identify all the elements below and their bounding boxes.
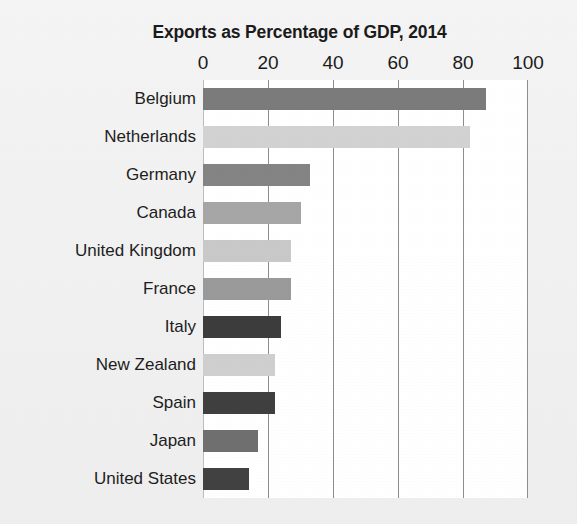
bar-new-zealand: [203, 354, 275, 376]
bar-spain: [203, 392, 275, 414]
category-label-japan: Japan: [150, 432, 196, 449]
x-tick-label-100: 100: [512, 52, 544, 74]
bar-row: [203, 468, 528, 490]
bar-row: [203, 164, 528, 186]
bar-row: [203, 430, 528, 452]
x-tick-label-0: 0: [198, 52, 209, 74]
bar-netherlands: [203, 126, 470, 148]
bar-italy: [203, 316, 281, 338]
x-tick-label-80: 80: [452, 52, 473, 74]
bar-row: [203, 316, 528, 338]
bar-row: [203, 126, 528, 148]
category-label-germany: Germany: [126, 166, 196, 183]
bar-united-states: [203, 468, 249, 490]
x-tick-label-40: 40: [322, 52, 343, 74]
category-label-france: France: [143, 280, 196, 297]
category-label-united-kingdom: United Kingdom: [75, 242, 196, 259]
x-tick-label-60: 60: [387, 52, 408, 74]
category-label-spain: Spain: [153, 394, 196, 411]
bar-row: [203, 240, 528, 262]
bar-japan: [203, 430, 258, 452]
bar-france: [203, 278, 291, 300]
plot-area: [203, 80, 528, 498]
bar-row: [203, 392, 528, 414]
x-tick-label-20: 20: [257, 52, 278, 74]
bar-united-kingdom: [203, 240, 291, 262]
bar-row: [203, 202, 528, 224]
category-label-italy: Italy: [165, 318, 196, 335]
category-label-united-states: United States: [94, 470, 196, 487]
bar-germany: [203, 164, 310, 186]
bar-chart: Exports as Percentage of GDP, 2014 02040…: [0, 0, 577, 524]
bar-series: [203, 80, 528, 498]
category-label-canada: Canada: [136, 204, 196, 221]
bar-row: [203, 88, 528, 110]
bar-canada: [203, 202, 301, 224]
category-label-belgium: Belgium: [135, 90, 196, 107]
bar-row: [203, 278, 528, 300]
x-axis-tick-labels: 020406080100: [203, 52, 528, 78]
chart-title: Exports as Percentage of GDP, 2014: [0, 22, 577, 43]
bar-belgium: [203, 88, 486, 110]
bar-row: [203, 354, 528, 376]
category-label-netherlands: Netherlands: [104, 128, 196, 145]
category-label-new-zealand: New Zealand: [96, 356, 196, 373]
y-axis-category-labels: BelgiumNetherlandsGermanyCanadaUnited Ki…: [0, 80, 196, 498]
